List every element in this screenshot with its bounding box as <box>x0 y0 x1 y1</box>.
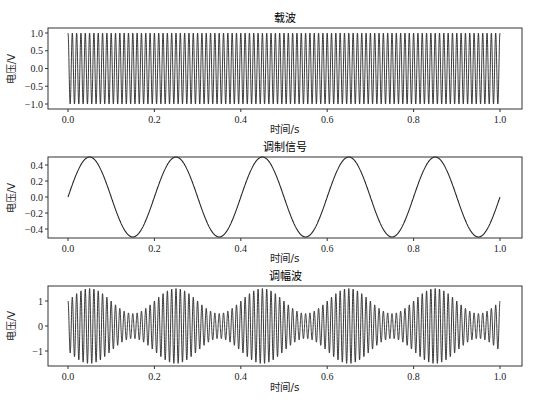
x-tick-label: 0.0 <box>62 371 75 382</box>
x-tick-label: 1.0 <box>494 114 507 125</box>
x-tick-label: 0.6 <box>321 114 334 125</box>
y-axis-label: 电压/V <box>5 183 17 213</box>
x-axis-label: 时间/s <box>270 381 299 393</box>
x-tick-label: 0.4 <box>235 371 248 382</box>
y-tick-label: 0.5 <box>31 45 44 56</box>
y-axis-ticks: 1.00.50.0−0.5−1.0 <box>25 28 48 110</box>
x-tick-label: 0.2 <box>148 114 161 125</box>
x-tick-label: 0.0 <box>62 243 75 254</box>
y-tick-label: 0.0 <box>31 192 44 203</box>
y-tick-label: −0.2 <box>25 208 43 219</box>
am-wave-line <box>68 289 500 364</box>
subplot-am-wave: 调幅波 0.00.20.40.60.81.0 10−1 时间/s 电压/V <box>5 270 522 393</box>
y-tick-label: 0 <box>38 321 43 332</box>
x-axis-label: 时间/s <box>270 123 299 135</box>
subplot-modulating-signal: 调制信号 0.00.20.40.60.81.0 0.40.20.0−0.2−0.… <box>5 141 522 264</box>
figure: 载波 0.00.20.40.60.81.0 1.00.50.0−0.5−1.0 … <box>0 0 534 409</box>
y-tick-label: −0.5 <box>25 81 43 92</box>
y-axis-label: 电压/V <box>5 54 17 84</box>
x-tick-label: 0.6 <box>321 243 334 254</box>
x-axis-label: 时间/s <box>270 252 299 264</box>
x-tick-label: 0.6 <box>321 371 334 382</box>
x-tick-label: 1.0 <box>494 371 507 382</box>
y-tick-label: −1.0 <box>25 99 43 110</box>
x-tick-label: 0.2 <box>148 243 161 254</box>
subplot-title: 载波 <box>274 12 296 25</box>
x-tick-label: 0.8 <box>407 243 420 254</box>
y-axis-ticks: 10−1 <box>32 296 48 357</box>
y-tick-label: 0.0 <box>31 63 44 74</box>
y-tick-label: 0.2 <box>31 176 44 187</box>
y-axis-ticks: 0.40.20.0−0.2−0.4 <box>25 160 48 235</box>
x-axis-ticks: 0.00.20.40.60.81.0 <box>62 366 507 382</box>
y-tick-label: −1 <box>32 346 43 357</box>
y-tick-label: 1 <box>38 296 43 307</box>
x-tick-label: 0.0 <box>62 114 75 125</box>
y-tick-label: 0.4 <box>31 160 44 171</box>
axes-frame <box>48 157 522 238</box>
x-tick-label: 0.4 <box>235 243 248 254</box>
y-tick-label: −0.4 <box>25 224 43 235</box>
modulating-signal-line <box>68 157 500 237</box>
x-tick-label: 0.8 <box>407 114 420 125</box>
carrier-line <box>68 33 500 104</box>
x-tick-label: 0.4 <box>235 114 248 125</box>
x-tick-label: 1.0 <box>494 243 507 254</box>
x-tick-label: 0.2 <box>148 371 161 382</box>
y-tick-label: 1.0 <box>31 28 44 39</box>
x-tick-label: 0.8 <box>407 371 420 382</box>
subplot-title: 调幅波 <box>269 270 302 283</box>
subplot-title: 调制信号 <box>263 141 307 154</box>
subplot-carrier: 载波 0.00.20.40.60.81.0 1.00.50.0−0.5−1.0 … <box>5 12 522 135</box>
y-axis-label: 电压/V <box>5 311 17 341</box>
